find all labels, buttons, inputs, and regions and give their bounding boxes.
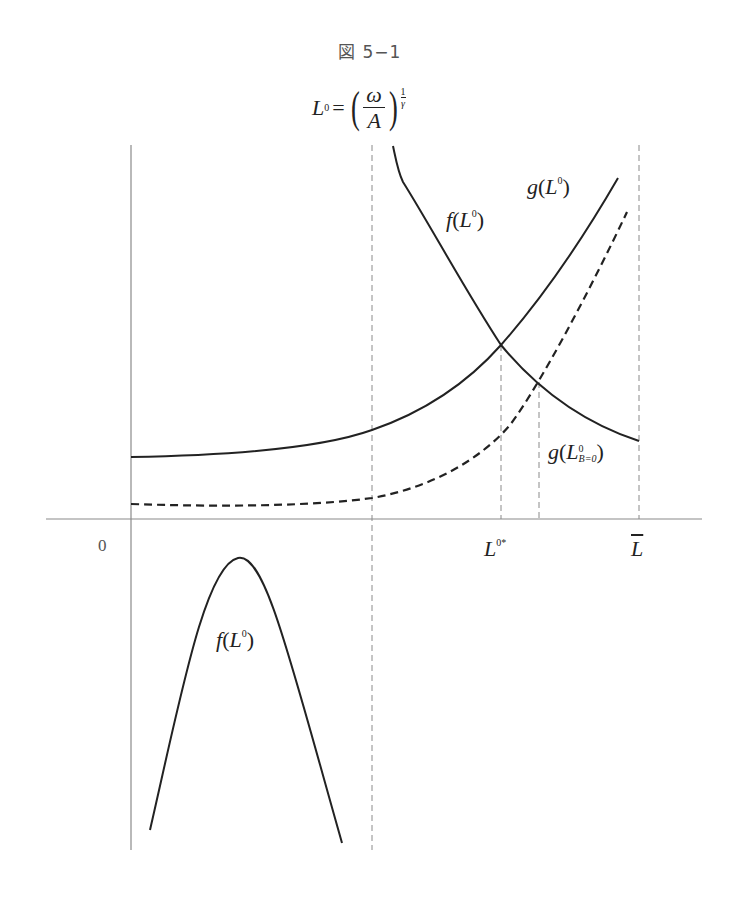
formula-equals: = bbox=[332, 97, 344, 119]
exponent-numerator: 1 bbox=[401, 86, 406, 98]
exponent-denominator: γ bbox=[401, 98, 405, 109]
formula-denominator: A bbox=[367, 108, 380, 132]
formula-fraction: ω A bbox=[363, 84, 385, 132]
close-paren: ) bbox=[596, 439, 603, 464]
formula-lhs-sup: 0 bbox=[324, 103, 329, 113]
var-sub: B=0 bbox=[579, 454, 597, 464]
var-base: L bbox=[229, 627, 241, 652]
var-base: L bbox=[459, 207, 471, 232]
sup-sub-stack: 0B=0 bbox=[579, 444, 597, 464]
g-dashed-label: g(L0B=0) bbox=[548, 441, 604, 464]
right-paren-glyph: ) bbox=[389, 86, 398, 130]
close-paren: ) bbox=[477, 207, 484, 232]
formula-exponent: 1 γ bbox=[401, 86, 406, 109]
fn-name: g bbox=[548, 439, 559, 464]
f-curve-upper bbox=[393, 146, 639, 441]
diagram-canvas bbox=[0, 0, 745, 908]
l-bar-tick-label: L bbox=[631, 538, 643, 560]
f-curve-lower bbox=[150, 558, 342, 843]
f-upper-label: f(L0) bbox=[446, 209, 484, 231]
var-base: L bbox=[566, 439, 578, 464]
left-paren-glyph: ( bbox=[351, 86, 360, 130]
close-paren: ) bbox=[563, 174, 570, 199]
tick-base: L bbox=[484, 536, 496, 561]
threshold-formula: L0 = ( ω A ) 1 γ bbox=[312, 84, 406, 132]
figure-title: 図 5−1 bbox=[338, 44, 401, 61]
var-base: L bbox=[545, 174, 557, 199]
close-paren: ) bbox=[247, 627, 254, 652]
g-solid-label: g(L0) bbox=[527, 176, 570, 198]
formula-numerator: ω bbox=[363, 84, 385, 108]
origin-label: 0 bbox=[98, 537, 107, 554]
tick-base: L bbox=[631, 536, 643, 561]
formula-lhs: L bbox=[312, 97, 324, 119]
tick-sup: 0* bbox=[496, 537, 506, 548]
l-star-tick-label: L0* bbox=[484, 538, 506, 560]
g-curve-solid bbox=[131, 178, 618, 457]
f-lower-label: f(L0) bbox=[216, 629, 254, 651]
fn-name: g bbox=[527, 174, 538, 199]
